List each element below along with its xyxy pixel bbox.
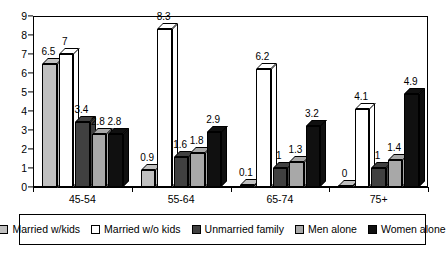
y-axis-tick-label: 9 — [21, 11, 27, 22]
legend-swatch-icon — [0, 225, 8, 234]
y-axis-tick-mark — [28, 34, 33, 35]
bar-value-label: 3.2 — [305, 109, 319, 119]
bar-value-label: 0.9 — [140, 153, 154, 163]
bar-side-face — [419, 88, 425, 187]
y-axis-tick-mark — [28, 167, 33, 168]
x-axis-tick-mark — [329, 187, 330, 192]
bar — [157, 29, 172, 187]
legend-item: Married w/o kids — [91, 224, 180, 235]
bar-value-label: 7 — [62, 37, 68, 47]
bar — [273, 168, 288, 187]
bar-value-label: 4.9 — [404, 77, 418, 87]
legend-swatch-icon — [295, 225, 304, 234]
legend-label: Women alone — [381, 224, 446, 235]
y-axis-tick-mark — [28, 148, 33, 149]
bar — [207, 132, 222, 187]
y-axis-tick-label: 0 — [21, 182, 27, 193]
bar-front-face — [108, 134, 123, 187]
y-axis-tick-mark — [28, 129, 33, 130]
bar — [92, 134, 107, 187]
bar — [388, 160, 403, 187]
bar-front-face — [141, 170, 156, 187]
chart-legend: Married w/kidsMarried w/o kidsUnmarried … — [19, 214, 426, 245]
bar — [355, 109, 370, 187]
bar — [190, 153, 205, 187]
y-axis-tick-label: 4 — [21, 106, 27, 117]
legend-item: Married w/kids — [0, 224, 80, 235]
legend-swatch-icon — [368, 225, 377, 234]
y-axis-tick-mark — [28, 72, 33, 73]
bar — [108, 134, 123, 187]
bar — [338, 186, 353, 187]
bar — [371, 168, 386, 187]
bar-front-face — [174, 157, 189, 187]
bar-value-label: 4.1 — [354, 92, 368, 102]
bar-value-label: 6.5 — [41, 47, 55, 57]
bar-front-face — [240, 185, 255, 187]
bar-value-label: 1.3 — [288, 145, 302, 155]
y-axis: 0123456789 — [0, 16, 33, 187]
x-axis-tick-mark — [428, 187, 429, 192]
y-axis-tick-mark — [28, 91, 33, 92]
y-axis-tick-mark — [28, 53, 33, 54]
bar-front-face — [388, 160, 403, 187]
bar-value-label: 1.4 — [387, 143, 401, 153]
y-axis-tick-mark — [28, 110, 33, 111]
bar-value-label: 6.2 — [255, 52, 269, 62]
legend-item: Men alone — [295, 224, 357, 235]
bar-value-label: 2.8 — [91, 117, 105, 127]
bar-front-face — [157, 29, 172, 187]
bar — [75, 122, 90, 187]
bar-front-face — [404, 94, 419, 187]
bar-value-label: 1.6 — [173, 140, 187, 150]
bar-front-face — [92, 134, 107, 187]
bar-front-face — [256, 69, 271, 187]
bar-value-label: 8.3 — [157, 12, 171, 22]
y-axis-tick-mark — [28, 15, 33, 16]
bar-side-face — [320, 120, 326, 187]
bar — [42, 64, 57, 188]
x-axis-tick-mark — [231, 187, 232, 192]
legend-item: Unmarried family — [192, 224, 284, 235]
legend-swatch-icon — [91, 225, 100, 234]
bar — [306, 126, 321, 187]
y-axis-tick-label: 5 — [21, 87, 27, 98]
y-axis-tick-label: 8 — [21, 30, 27, 41]
bar-front-face — [75, 122, 90, 187]
bar-value-label: 0 — [342, 169, 348, 179]
legend-label: Married w/kids — [12, 224, 80, 235]
bar-side-face — [123, 128, 129, 187]
x-axis-category-label: 65-74 — [266, 194, 293, 205]
bar — [256, 69, 271, 187]
legend-label: Men alone — [308, 224, 357, 235]
bar-value-label: 1 — [375, 151, 381, 161]
x-axis-tick-mark — [132, 187, 133, 192]
bar-front-face — [289, 162, 304, 187]
bar — [289, 162, 304, 187]
bar-front-face — [371, 168, 386, 187]
bar-value-label: 2.8 — [107, 117, 121, 127]
bar-front-face — [190, 153, 205, 187]
bar — [240, 185, 255, 187]
bar-front-face — [59, 54, 74, 187]
legend-label: Married w/o kids — [104, 224, 180, 235]
bar — [404, 94, 419, 187]
x-axis-category-label: 75+ — [370, 194, 388, 205]
bar-side-face — [221, 126, 227, 187]
bar-front-face — [42, 64, 57, 188]
x-axis-category-label: 55-64 — [168, 194, 195, 205]
bar — [59, 54, 74, 187]
y-axis-tick-label: 7 — [21, 49, 27, 60]
bar-value-label: 2.9 — [206, 115, 220, 125]
bar-front-face — [207, 132, 222, 187]
bar-value-label: 1 — [276, 151, 282, 161]
bar-front-face — [273, 168, 288, 187]
y-axis-tick-label: 1 — [21, 163, 27, 174]
bar-value-label: 3.4 — [74, 105, 88, 115]
y-axis-tick-label: 6 — [21, 68, 27, 79]
bar-front-face — [355, 109, 370, 187]
bar — [174, 157, 189, 187]
bar-value-label: 1.8 — [190, 136, 204, 146]
bar-front-face — [306, 126, 321, 187]
